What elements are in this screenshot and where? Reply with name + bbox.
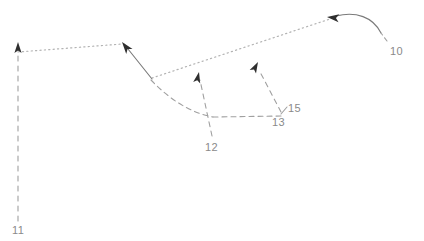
leader-line-10	[381, 33, 387, 41]
reference-label-11: 11	[12, 224, 24, 236]
leader-line-13	[259, 70, 281, 112]
reference-label-10: 10	[390, 45, 403, 57]
arrowhead-leader-13	[250, 60, 262, 73]
reference-label-15: 15	[288, 102, 301, 114]
reference-label-12: 12	[205, 141, 218, 153]
dotted-path-right-segment	[152, 17, 336, 78]
diagram-svg	[0, 0, 424, 241]
leader-line-15	[281, 107, 287, 114]
dotted-path-left-segment	[18, 44, 122, 52]
arrowhead-leader-12	[193, 71, 202, 83]
leader-line-12	[200, 80, 212, 136]
diagram-canvas: 10 11 12 13 15	[0, 0, 424, 241]
solid-curve-right	[336, 14, 381, 33]
arrowhead-curve-left	[327, 13, 340, 22]
solid-diagonal-stroke	[124, 44, 152, 79]
reference-label-13: 13	[272, 116, 285, 128]
